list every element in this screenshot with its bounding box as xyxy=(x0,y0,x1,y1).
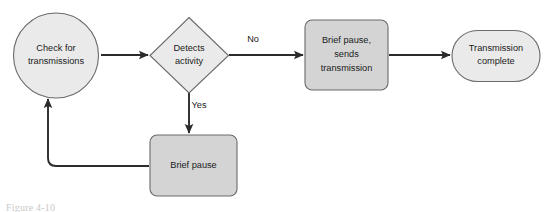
node-label-line2: activity xyxy=(175,56,203,66)
node-brief-pause-sends-transmission[interactable]: Brief pause, sends transmission xyxy=(305,20,388,90)
node-label-line1: Check for xyxy=(36,43,75,53)
node-label-line1: Brief pause xyxy=(170,160,216,170)
node-label-line1: Brief pause, xyxy=(322,35,371,45)
node-brief-pause[interactable]: Brief pause xyxy=(150,135,237,196)
edge-brief-pause-to-check xyxy=(48,99,149,166)
node-label-line2: sends xyxy=(334,49,359,59)
diamond-shape xyxy=(150,18,229,94)
flowchart-canvas: No Yes Check for transmissions Detects a… xyxy=(0,0,550,212)
edge-detects-to-brief-pause: Yes xyxy=(189,93,207,133)
edge-label-yes: Yes xyxy=(192,100,207,110)
edge-line xyxy=(48,99,149,166)
node-label-line2: complete xyxy=(477,56,514,66)
edge-detects-to-pause-send: No xyxy=(229,34,303,55)
node-detects-activity[interactable]: Detects activity xyxy=(150,18,229,94)
node-label-line3: transmission xyxy=(321,63,373,73)
node-label-line2: transmissions xyxy=(28,56,85,66)
node-transmission-complete[interactable]: Transmission complete xyxy=(452,31,540,82)
figure-caption: Figure 4-10 xyxy=(6,202,55,212)
node-label-line1: Transmission xyxy=(469,43,523,53)
edge-label-no: No xyxy=(247,34,259,44)
node-label-line1: Detects xyxy=(173,43,205,53)
node-check-for-transmissions[interactable]: Check for transmissions xyxy=(14,13,99,98)
